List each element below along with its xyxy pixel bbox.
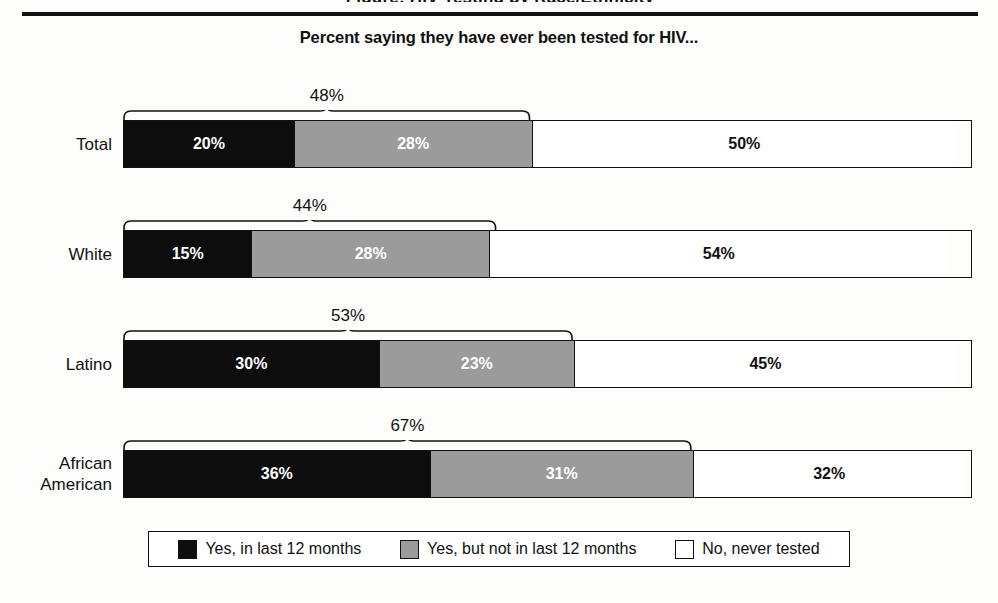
bar-segment-value: 30% (235, 355, 267, 373)
bar-segment-black: 15% (124, 231, 251, 277)
bar-segment-value: 36% (261, 465, 293, 483)
bar-segment-value: 28% (397, 135, 429, 153)
bar-segment-gray: 23% (379, 341, 574, 387)
bar-segment-gray: 28% (294, 121, 532, 167)
bar-segment-white: 50% (532, 121, 957, 167)
brace-label: 48% (310, 86, 344, 106)
brace-label: 53% (331, 306, 365, 326)
bar-segment-value: 45% (749, 355, 781, 373)
legend-item: Yes, but not in last 12 months (400, 540, 636, 559)
bar-segment-value: 23% (461, 355, 493, 373)
stacked-bar: 36%31%32% (123, 450, 972, 498)
brace-label: 44% (293, 196, 327, 216)
chart-figure: Figure: HIV Testing by Race/Ethnicity Pe… (0, 0, 998, 603)
row-category-label: AfricanAmerican (0, 453, 112, 495)
chart-subtitle: Percent saying they have ever been teste… (0, 28, 998, 47)
legend-item: No, never tested (675, 540, 819, 559)
bar-segment-black: 36% (124, 451, 430, 497)
bar-row: Total48%20%28%50% (0, 86, 998, 196)
brace-label: 67% (390, 416, 424, 436)
stacked-bar: 15%28%54% (123, 230, 972, 278)
white-swatch-icon (675, 540, 694, 559)
bar-segment-white: 45% (574, 341, 956, 387)
bar-segment-black: 20% (124, 121, 294, 167)
bar-segment-value: 15% (172, 245, 204, 263)
row-category-label-line: African (0, 453, 112, 474)
bar-segment-value: 20% (193, 135, 225, 153)
bar-segment-value: 32% (813, 465, 845, 483)
bar-segment-value: 50% (728, 135, 760, 153)
chart-legend: Yes, in last 12 months Yes, but not in l… (148, 531, 850, 567)
legend-item: Yes, in last 12 months (178, 540, 361, 559)
black-swatch-icon (178, 540, 197, 559)
bar-segment-white: 32% (693, 451, 965, 497)
bar-row: Latino53%30%23%45% (0, 306, 998, 416)
legend-item-label: Yes, in last 12 months (205, 540, 361, 558)
row-category-label: Total (0, 134, 112, 155)
bar-segment-gray: 28% (251, 231, 489, 277)
row-category-label: White (0, 244, 112, 265)
legend-item-label: No, never tested (702, 540, 819, 558)
bar-segment-value: 54% (703, 245, 735, 263)
bar-segment-gray: 31% (430, 451, 693, 497)
bar-segment-black: 30% (124, 341, 379, 387)
stacked-bar: 30%23%45% (123, 340, 972, 388)
stacked-bar: 20%28%50% (123, 120, 972, 168)
bar-row: White44%15%28%54% (0, 196, 998, 306)
bar-segment-white: 54% (489, 231, 947, 277)
bar-segment-value: 28% (355, 245, 387, 263)
figure-title-clipped: Figure: HIV Testing by Race/Ethnicity (22, 0, 978, 2)
bar-row: AfricanAmerican67%36%31%32% (0, 416, 998, 526)
row-category-label-line: American (0, 474, 112, 495)
bar-segment-value: 31% (546, 465, 578, 483)
top-rule-divider (22, 12, 978, 16)
gray-swatch-icon (400, 540, 419, 559)
row-category-label: Latino (0, 354, 112, 375)
legend-item-label: Yes, but not in last 12 months (427, 540, 636, 558)
